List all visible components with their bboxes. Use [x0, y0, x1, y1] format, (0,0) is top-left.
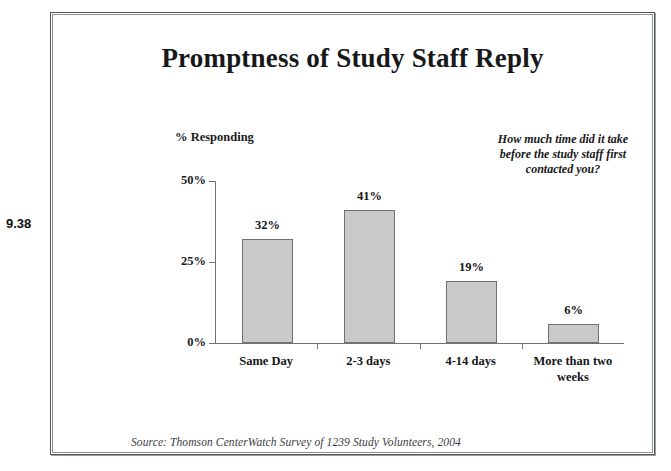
x-axis-tick-mark [522, 343, 523, 349]
x-axis-category-label: 4-14 days [420, 353, 522, 369]
question-annotation: How much time did it take before the stu… [483, 132, 643, 177]
x-axis-category-label: 2-3 days [317, 353, 419, 369]
figure-frame: Promptness of Study Staff Reply % Respon… [50, 12, 655, 455]
question-annotation-line-2: before the study staff first [483, 147, 643, 162]
bar[interactable] [446, 281, 497, 343]
y-axis-tick-mark [209, 343, 216, 344]
question-annotation-line-1: How much time did it take [483, 132, 643, 147]
x-axis-category-label: Same Day [215, 353, 317, 369]
bar-value-label: 32% [217, 218, 318, 233]
y-axis-tick-label: 25% [181, 254, 206, 269]
bar[interactable] [344, 210, 395, 343]
x-axis-tick-mark [317, 343, 318, 349]
y-axis-tick-mark [209, 181, 216, 182]
figure-number: 9.38 [6, 216, 31, 231]
y-axis-title: % Responding [175, 130, 254, 145]
plot-area: 0%25%50% 32%41%19%6% Same Day2-3 days4-1… [215, 181, 624, 343]
source-note: Source: Thomson CenterWatch Survey of 12… [131, 436, 461, 448]
bar-value-label: 19% [421, 260, 522, 275]
x-axis-category-label: More than two weeks [522, 353, 624, 385]
bar-value-label: 41% [319, 189, 420, 204]
y-axis-tick-label: 0% [187, 335, 206, 350]
y-axis-tick-mark [209, 262, 216, 263]
bar[interactable] [548, 324, 599, 343]
chart-title: Promptness of Study Staff Reply [51, 43, 654, 74]
y-axis-tick-label: 50% [181, 173, 206, 188]
x-axis-tick-mark [420, 343, 421, 349]
bar[interactable] [242, 239, 293, 343]
bar-value-label: 6% [523, 303, 624, 318]
question-annotation-line-3: contacted you? [483, 162, 643, 177]
